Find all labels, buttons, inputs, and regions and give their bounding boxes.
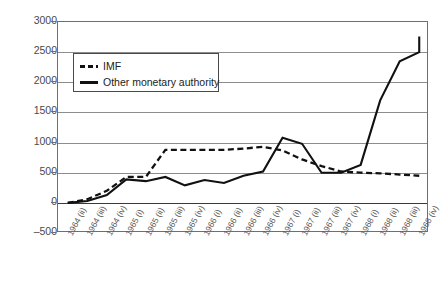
y-tick-mark	[51, 81, 56, 82]
chart-legend: IMF Other monetary authority	[73, 53, 219, 92]
y-tick-mark	[51, 21, 56, 22]
y-tick-label: 2500	[13, 45, 57, 55]
y-tick-label: 2000	[13, 75, 57, 85]
y-tick-mark	[51, 232, 56, 233]
y-tick-label: 0	[13, 196, 57, 206]
y-tick-label: 500	[13, 166, 57, 176]
legend-swatch-solid-icon	[80, 77, 98, 87]
y-axis: 300025002000150010005000–500	[0, 0, 57, 291]
legend-label-imf: IMF	[103, 61, 121, 72]
x-axis: 1964 (ii)1964 (iii)1964 (iv)1965 (i)1965…	[57, 233, 438, 291]
legend-item-imf: IMF	[80, 58, 212, 74]
y-tick-label: 1500	[13, 105, 57, 115]
legend-label-other-monetary-authority: Other monetary authority	[103, 77, 219, 88]
y-tick-label: 1000	[13, 136, 57, 146]
y-tick-mark	[51, 142, 56, 143]
y-tick-label: 3000	[13, 15, 57, 25]
y-tick-mark	[51, 111, 56, 112]
y-tick-mark	[51, 172, 56, 173]
legend-item-other-monetary-authority: Other monetary authority	[80, 74, 212, 90]
y-tick-mark	[51, 202, 56, 203]
y-tick-label: –500	[13, 226, 57, 236]
legend-swatch-dashed-icon	[80, 61, 98, 71]
y-tick-mark	[51, 51, 56, 52]
